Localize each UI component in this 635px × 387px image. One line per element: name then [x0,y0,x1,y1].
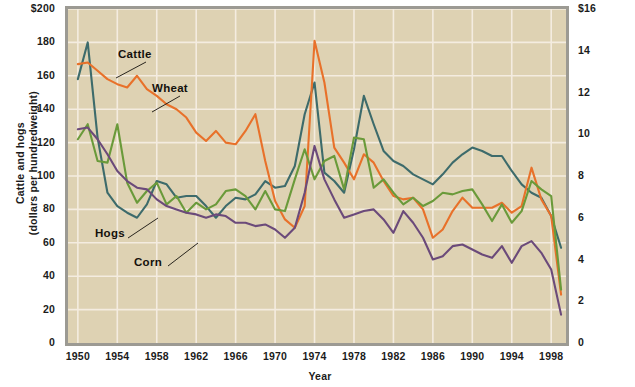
y-axis-left-tick: 20 [0,303,55,315]
y-axis-left-title-line2: (dollars per hundredweight) [27,91,39,235]
y-axis-left-tick: 160 [0,69,55,81]
y-axis-left-tick: 180 [0,35,55,47]
y-axis-left-tick: 0 [0,336,55,348]
y-axis-left-tick: $200 [0,2,55,14]
y-axis-left-title-line1: Cattle and hogs [14,122,26,204]
series-label-wheat: Wheat [152,82,188,94]
y-axis-right-tick: $16 [578,2,618,14]
y-axis-right-tick: 8 [578,169,618,181]
y-axis-left-tick: 40 [0,269,55,281]
y-axis-right-tick: 6 [578,211,618,223]
y-axis-right-tick: 14 [578,44,618,56]
y-axis-right-tick: 2 [578,294,618,306]
y-axis-right-tick: 10 [578,127,618,139]
series-label-cattle: Cattle [118,48,152,60]
y-axis-right-tick: 0 [578,336,618,348]
chart-container: $200180160140120100806040200 $1614121086… [0,0,635,387]
x-axis-title: Year [270,370,370,383]
series-line-corn [78,128,561,315]
x-axis-tick: 1998 [528,350,574,362]
series-label-hogs: Hogs [95,227,125,239]
y-axis-left-title: Cattle and hogs (dollars per hundredweig… [14,88,40,238]
series-label-corn: Corn [134,256,162,268]
y-axis-right-tick: 12 [578,86,618,98]
y-axis-right-tick: 4 [578,253,618,265]
